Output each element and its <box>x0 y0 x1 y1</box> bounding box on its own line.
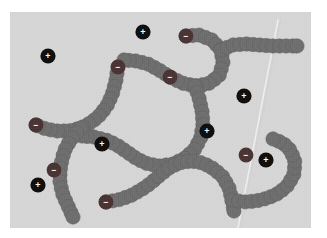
pos-ion-6[interactable]: + <box>258 152 273 167</box>
pos-ion-6-disc[interactable] <box>258 152 273 167</box>
chain-neg-1[interactable]: − <box>179 29 194 44</box>
chain-bead <box>290 39 304 53</box>
chain-lower-right-tail <box>225 132 302 209</box>
chain-right-arm <box>214 37 304 57</box>
pos-ion-7[interactable]: + <box>30 177 45 192</box>
chain-neg-5[interactable]: − <box>47 163 62 178</box>
pos-ion-3[interactable]: + <box>236 88 251 103</box>
polymer-chains-group <box>29 28 304 224</box>
chain-neg-1-disc[interactable] <box>179 29 194 44</box>
pos-ion-2-disc[interactable] <box>40 48 55 63</box>
chain-neg-3[interactable]: − <box>163 70 178 85</box>
chain-neg-4[interactable]: − <box>29 118 44 133</box>
pos-ion-4[interactable]: + <box>199 123 214 138</box>
pos-ion-2[interactable]: + <box>40 48 55 63</box>
chain-lower-center <box>99 154 241 218</box>
chain-bead <box>266 132 280 146</box>
chain-neg-3-disc[interactable] <box>163 70 178 85</box>
diagram-svg: −−−−−−− +++++++ <box>10 12 311 228</box>
pos-ion-1-disc[interactable] <box>135 24 150 39</box>
chain-neg-7[interactable]: − <box>239 148 254 163</box>
figure-canvas: −−−−−−− +++++++ <box>0 0 327 238</box>
pos-ion-7-disc[interactable] <box>30 177 45 192</box>
pos-ion-5-disc[interactable] <box>94 136 109 151</box>
pos-ion-4-disc[interactable] <box>199 123 214 138</box>
chain-bead <box>66 210 80 224</box>
chain-neg-6[interactable]: − <box>99 195 114 210</box>
chain-neg-6-disc[interactable] <box>99 195 114 210</box>
chain-neg-7-disc[interactable] <box>239 148 254 163</box>
diagram-panel: −−−−−−− +++++++ <box>10 12 311 228</box>
chain-neg-5-disc[interactable] <box>47 163 62 178</box>
pos-ion-5[interactable]: + <box>94 136 109 151</box>
pos-ion-1[interactable]: + <box>135 24 150 39</box>
chain-neg-2[interactable]: − <box>111 60 126 75</box>
chain-neg-4-disc[interactable] <box>29 118 44 133</box>
chain-neg-2-disc[interactable] <box>111 60 126 75</box>
pos-ion-3-disc[interactable] <box>236 88 251 103</box>
